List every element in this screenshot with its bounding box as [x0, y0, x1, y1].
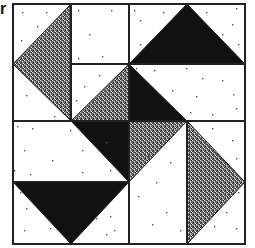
- print-dot: [134, 10, 135, 11]
- print-dot: [140, 44, 141, 45]
- print-dot: [22, 12, 23, 13]
- print-dot: [168, 140, 169, 141]
- print-dot: [17, 126, 18, 127]
- print-dot: [226, 212, 227, 213]
- print-dot: [96, 218, 97, 219]
- print-dot: [212, 114, 213, 115]
- print-dot: [202, 78, 203, 79]
- print-dot: [24, 230, 25, 231]
- print-dot: [166, 124, 167, 125]
- print-dot: [14, 170, 15, 171]
- print-dot: [172, 90, 173, 91]
- print-dot: [114, 230, 115, 231]
- print-dot: [222, 80, 223, 81]
- print-dot: [89, 34, 90, 35]
- print-dot: [186, 68, 187, 69]
- print-dot: [238, 44, 239, 45]
- print-dot: [236, 8, 237, 9]
- print-dot: [37, 26, 38, 27]
- print-dot: [196, 96, 197, 97]
- print-dot: [154, 70, 155, 71]
- print-dot: [148, 156, 149, 157]
- print-dot: [30, 174, 31, 175]
- print-dot: [111, 10, 112, 11]
- print-dot: [82, 150, 83, 151]
- print-dot: [70, 130, 71, 131]
- print-dot: [110, 216, 111, 217]
- print-dot: [24, 150, 25, 151]
- print-dot: [170, 162, 171, 163]
- print-dot: [84, 86, 85, 87]
- print-dot: [102, 56, 103, 57]
- print-dot: [214, 226, 215, 227]
- print-dot: [233, 94, 234, 95]
- print-dot: [238, 192, 239, 193]
- print-dot: [190, 112, 191, 113]
- print-dot: [236, 108, 237, 109]
- print-dot: [76, 100, 77, 101]
- print-dot: [232, 140, 233, 141]
- print-dot: [110, 170, 111, 171]
- print-dot: [156, 182, 157, 183]
- print-dot: [99, 75, 100, 76]
- print-dot: [140, 20, 141, 21]
- print-dot: [236, 158, 237, 159]
- print-dot: [206, 12, 207, 13]
- print-dot: [78, 10, 79, 11]
- print-dot: [106, 142, 107, 143]
- print-dot: [54, 116, 55, 117]
- print-dot: [136, 68, 137, 69]
- print-dot: [26, 208, 27, 209]
- print-dot: [52, 160, 53, 161]
- quilt-block-diagram: [0, 0, 255, 248]
- print-dot: [78, 58, 79, 59]
- print-dot: [163, 12, 164, 13]
- print-dot: [106, 234, 107, 235]
- print-dot: [138, 196, 139, 197]
- print-dot: [236, 228, 237, 229]
- print-dot: [82, 172, 83, 173]
- print-dot: [222, 34, 223, 35]
- print-dot: [232, 24, 233, 25]
- print-dot: [50, 228, 51, 229]
- print-dot: [46, 12, 47, 13]
- print-dot: [92, 100, 93, 101]
- print-dot: [26, 95, 27, 96]
- print-dot: [21, 40, 22, 41]
- print-dot: [166, 212, 167, 213]
- print-dot: [152, 224, 153, 225]
- print-dot: [180, 230, 181, 231]
- print-dot: [20, 192, 21, 193]
- print-dot: [212, 128, 213, 129]
- print-dot: [32, 128, 33, 129]
- print-dot: [105, 90, 106, 91]
